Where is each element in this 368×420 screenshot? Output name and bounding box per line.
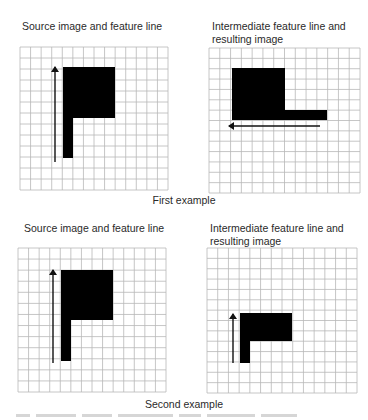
black-shape-region xyxy=(63,118,73,158)
black-shape-region xyxy=(61,270,113,320)
black-shape-region xyxy=(232,68,285,120)
black-shape-region xyxy=(240,313,292,341)
black-shape-region xyxy=(285,110,327,120)
cutoff-figure-caption xyxy=(16,414,306,420)
diagram-canvas xyxy=(0,0,368,420)
arrowhead-icon xyxy=(228,122,234,130)
arrowhead-icon xyxy=(229,313,237,319)
black-shape-region xyxy=(240,341,250,363)
black-shape-region xyxy=(63,67,115,118)
black-shape-region xyxy=(61,320,71,361)
